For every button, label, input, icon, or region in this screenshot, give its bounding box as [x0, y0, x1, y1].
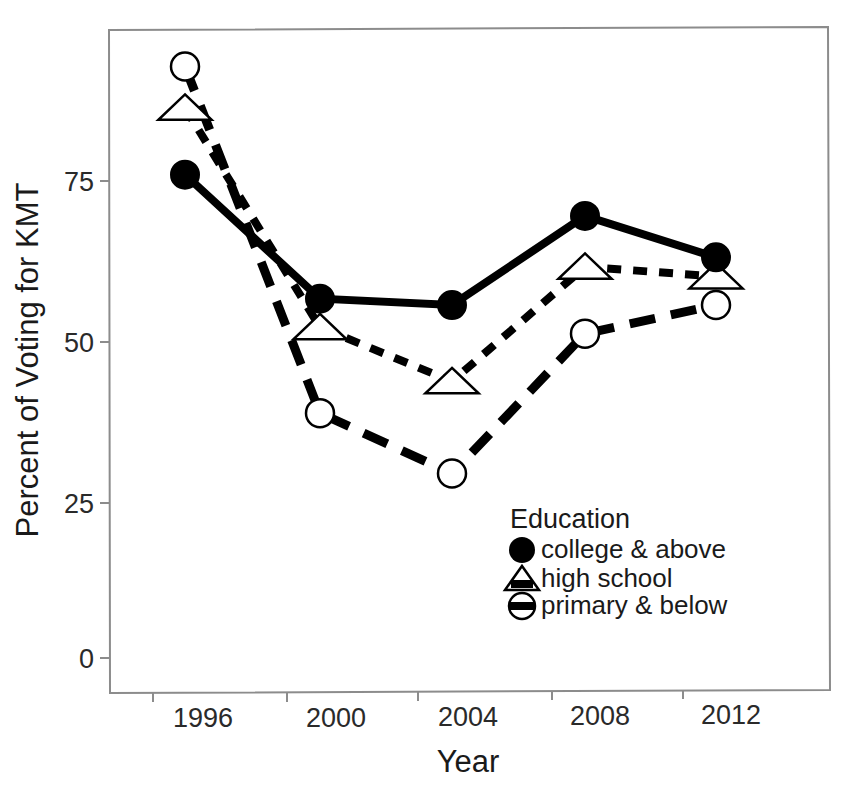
- y-axis-title: Percent of Voting for KMT: [10, 182, 45, 537]
- datapoint-college-above-1996: [171, 161, 199, 189]
- datapoint-primary-below-2004: [438, 460, 466, 488]
- datapoint-college-above-2012: [702, 243, 730, 271]
- datapoint-primary-below-2000: [306, 399, 334, 427]
- filled-circle-icon: [509, 537, 535, 563]
- x-tick-label-2008: 2008: [570, 701, 630, 731]
- legend-label: high school: [541, 563, 673, 593]
- datapoint-college-above-2004: [438, 291, 466, 319]
- x-tick-label-2000: 2000: [306, 703, 366, 733]
- datapoint-college-above-2008: [571, 202, 599, 230]
- x-axis-title: Year: [437, 744, 500, 779]
- legend-entry-primary-below: primary & below: [509, 590, 728, 620]
- x-tick-label-1996: 1996: [173, 703, 233, 733]
- datapoint-college-above-2000: [306, 285, 334, 313]
- open-circle-bar-icon: [509, 593, 535, 619]
- datapoint-primary-below-2008: [571, 320, 599, 348]
- y-tick-label-0: 0: [79, 644, 94, 674]
- x-tick-label-2012: 2012: [701, 700, 761, 730]
- datapoint-primary-below-1996: [171, 53, 199, 81]
- y-tick-label-75: 75: [64, 167, 94, 197]
- x-tick-label-2004: 2004: [438, 702, 498, 732]
- legend-entry-college-above: college & above: [509, 534, 726, 564]
- line-chart-figure: 0 25 50 75 Percent of Voting for KMT 199…: [0, 0, 856, 788]
- datapoint-primary-below-2012: [702, 291, 730, 319]
- legend-label: primary & below: [541, 590, 728, 620]
- y-tick-label-50: 50: [64, 328, 94, 358]
- y-tick-label-25: 25: [64, 489, 94, 519]
- legend-label: college & above: [541, 534, 726, 564]
- legend-title: Education: [510, 504, 630, 534]
